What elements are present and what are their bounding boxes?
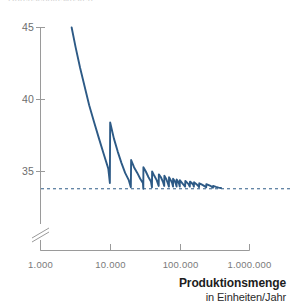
y-tick-label-40: 40: [8, 93, 34, 105]
x-axis-title-main: Produktionsmenge: [179, 276, 286, 290]
chart-figure: Durchschnittskosten 45: [0, 0, 296, 306]
x-tick-label-1000000: 1.000.000: [215, 259, 285, 270]
axis-break-icon: [32, 228, 49, 242]
x-tick-label-1000: 1.000: [6, 259, 76, 270]
y-tick-label-45: 45: [8, 21, 34, 33]
x-tick-label-10000: 10.000: [76, 259, 146, 270]
x-tick-label-100000: 100.000: [146, 259, 216, 270]
x-axis-ticks: [41, 244, 250, 251]
x-axis-title-sub: in Einheiten/Jahr: [206, 291, 286, 303]
cost-curve-line: [72, 28, 221, 189]
y-tick-label-35: 35: [8, 165, 34, 177]
